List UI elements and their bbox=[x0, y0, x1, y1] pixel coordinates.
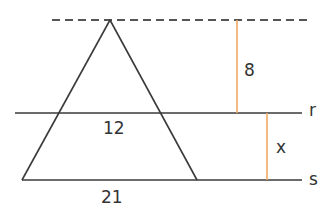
label-segment-12: 12 bbox=[103, 118, 125, 138]
parallel-lines-triangle-diagram: 8 x 12 21 r s bbox=[0, 0, 329, 216]
label-height-x: x bbox=[276, 137, 286, 157]
label-line-r: r bbox=[309, 100, 316, 120]
label-height-8: 8 bbox=[244, 60, 255, 80]
triangle-left-side bbox=[22, 20, 110, 180]
label-line-s: s bbox=[309, 169, 318, 189]
label-segment-21: 21 bbox=[101, 187, 123, 207]
triangle-right-side bbox=[110, 20, 197, 180]
